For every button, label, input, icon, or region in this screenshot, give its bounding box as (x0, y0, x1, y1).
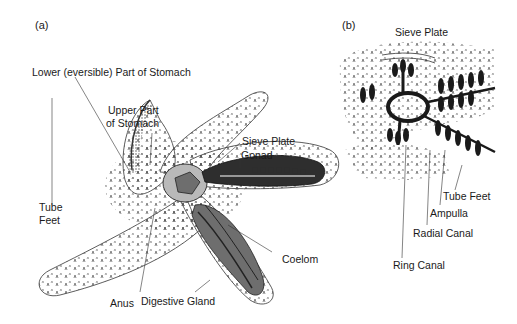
panel-b-label: (b) (342, 19, 355, 31)
label-gonad: Gonad (241, 149, 273, 161)
water-vascular-system (340, 42, 495, 180)
label-upper-stomach-line1: Upper Part (108, 104, 159, 116)
label-digestive-gland: Digestive Gland (141, 295, 215, 307)
label-ring-canal: Ring Canal (393, 259, 445, 271)
label-tube-feet-a-line1: Tube (39, 201, 63, 213)
label-tube-feet-a-line2: Feet (39, 214, 60, 226)
label-ampulla: Ampulla (430, 207, 468, 219)
starfish-diagram (0, 0, 517, 324)
label-upper-stomach-line2: of Stomach (106, 117, 159, 129)
label-sieve-plate-b: Sieve Plate (395, 26, 448, 38)
label-anus: Anus (110, 297, 134, 309)
label-coelom: Coelom (282, 253, 318, 265)
panel-a-label: (a) (35, 19, 48, 31)
label-lower-stomach: Lower (eversible) Part of Stomach (32, 66, 191, 78)
label-sieve-plate-a: Sieve Plate (242, 135, 295, 147)
starfish-body (39, 92, 339, 304)
label-radial-canal: Radial Canal (413, 227, 473, 239)
label-tube-feet-b: Tube Feet (443, 190, 490, 202)
